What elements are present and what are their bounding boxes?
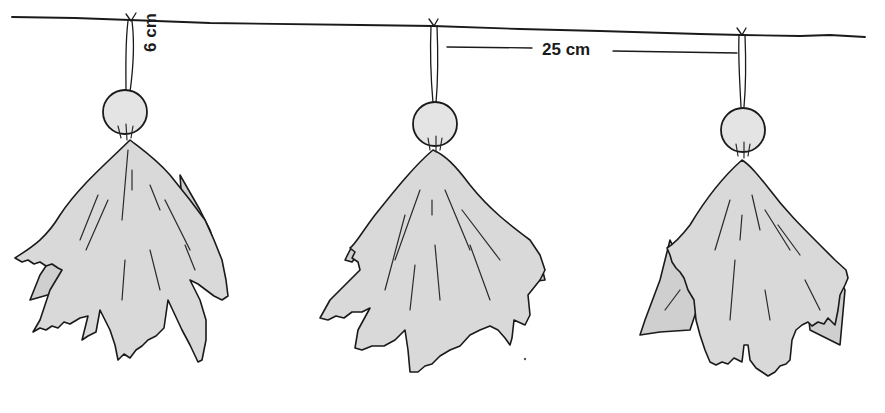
hanging-length-label: 6 cm — [141, 13, 161, 52]
illustration: 6 cm 25 cm — [0, 0, 885, 413]
ghost-figure-1 — [15, 13, 228, 362]
ghost-head — [103, 90, 147, 134]
ghost-figure-2 — [320, 19, 545, 372]
hanging-string — [12, 17, 865, 37]
ghost-garland-drawing — [0, 0, 885, 413]
ghost-head — [721, 108, 765, 152]
ghost-head — [413, 102, 457, 146]
dimension-line-left — [447, 47, 532, 48]
ghost-figure-3 — [640, 28, 848, 376]
dimension-line-right — [613, 51, 737, 53]
spacing-label: 25 cm — [542, 40, 590, 60]
